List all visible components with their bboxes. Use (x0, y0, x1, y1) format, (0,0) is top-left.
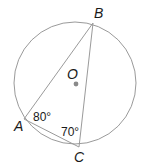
point-label-c: C (74, 149, 85, 164)
circle-diagram: O B A C 80° 70° (0, 0, 145, 164)
center-label: O (67, 66, 78, 82)
point-label-a: A (13, 118, 23, 134)
point-label-b: B (94, 5, 103, 21)
segment-bc (79, 23, 93, 147)
angle-label-a: 80° (33, 110, 51, 124)
angle-label-c: 70° (61, 125, 79, 139)
center-dot (74, 82, 79, 87)
